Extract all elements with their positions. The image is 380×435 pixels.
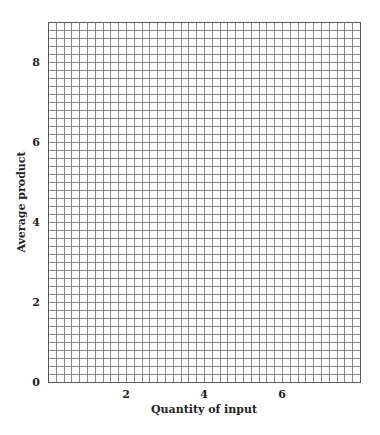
x-axis-ticks: 246	[122, 388, 286, 401]
x-tick-label: 4	[200, 388, 208, 401]
chart-grid	[48, 22, 361, 383]
x-tick-label: 2	[122, 388, 130, 401]
y-axis-ticks: 02468	[32, 56, 40, 389]
y-tick-label: 8	[32, 56, 40, 69]
blank-graph-paper-chart: 02468 246 Average product Quantity of in…	[0, 0, 380, 435]
x-axis-label: Quantity of input	[151, 403, 258, 416]
x-tick-label: 6	[278, 388, 286, 401]
y-tick-label: 2	[32, 296, 40, 309]
y-tick-label: 6	[32, 136, 40, 149]
y-tick-label: 0	[32, 376, 40, 389]
y-axis-label: Average product	[15, 150, 28, 253]
y-tick-label: 4	[32, 216, 40, 229]
